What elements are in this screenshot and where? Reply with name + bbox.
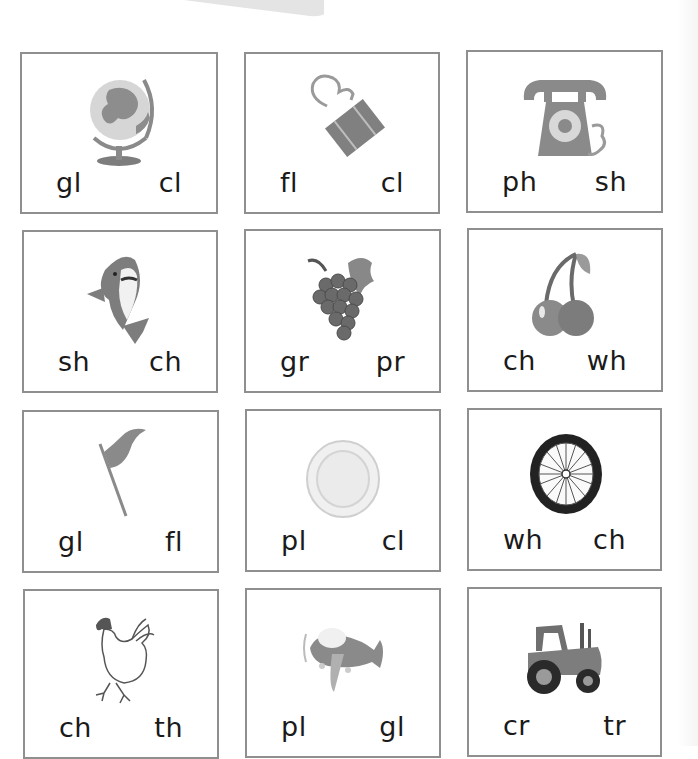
- plate-icon: [288, 425, 398, 525]
- picture-card-chicken: ch th: [23, 589, 219, 759]
- picture-card-plane: pl gl: [245, 588, 441, 758]
- picture-card-wheel: wh ch: [467, 408, 662, 571]
- picture-card-tractor: cr tr: [467, 587, 662, 757]
- picture-card-flag: gl fl: [22, 410, 219, 573]
- option-right[interactable]: wh: [587, 347, 627, 374]
- option-right[interactable]: gl: [379, 713, 405, 740]
- option-left[interactable]: wh: [503, 526, 543, 553]
- picture-card-grapes: gr pr: [244, 229, 441, 393]
- globe-icon: [64, 68, 174, 168]
- page-edge: [678, 0, 698, 746]
- plane-icon: [288, 604, 398, 704]
- picture-card-plate: pl cl: [245, 409, 441, 572]
- flag-icon: [66, 426, 176, 526]
- option-right[interactable]: sh: [595, 168, 627, 195]
- option-left[interactable]: cr: [503, 712, 530, 739]
- picture-card-telephone: ph sh: [466, 50, 663, 213]
- option-left[interactable]: pl: [281, 713, 307, 740]
- option-right[interactable]: cl: [159, 169, 182, 196]
- option-right[interactable]: pr: [376, 348, 405, 375]
- tractor-icon: [510, 603, 620, 703]
- picture-card-shark: sh ch: [22, 230, 218, 393]
- telephone-icon: [510, 66, 620, 166]
- option-left[interactable]: ch: [503, 347, 536, 374]
- option-left[interactable]: fl: [280, 169, 298, 196]
- option-right[interactable]: th: [154, 714, 183, 741]
- option-left[interactable]: ch: [59, 714, 92, 741]
- grapes-icon: [288, 245, 398, 345]
- option-left[interactable]: gl: [56, 169, 82, 196]
- option-right[interactable]: ch: [149, 348, 182, 375]
- cherries-icon: [510, 244, 620, 344]
- option-left[interactable]: pl: [281, 527, 307, 554]
- option-right[interactable]: ch: [593, 526, 626, 553]
- option-left[interactable]: gl: [58, 528, 84, 555]
- wheel-icon: [510, 424, 620, 524]
- chicken-icon: [66, 605, 176, 705]
- picture-card-globe: gl cl: [20, 52, 218, 214]
- shark-icon: [65, 246, 175, 346]
- option-right[interactable]: cl: [381, 169, 404, 196]
- option-left[interactable]: gr: [280, 348, 309, 375]
- title-banner: [14, 0, 324, 18]
- binder-clip-icon: [287, 68, 397, 168]
- option-left[interactable]: ph: [502, 168, 537, 195]
- option-right[interactable]: tr: [603, 712, 626, 739]
- picture-card-binder-clip: fl cl: [244, 52, 440, 214]
- option-right[interactable]: fl: [165, 528, 183, 555]
- picture-card-cherries: ch wh: [467, 228, 663, 392]
- option-right[interactable]: cl: [382, 527, 405, 554]
- option-left[interactable]: sh: [58, 348, 90, 375]
